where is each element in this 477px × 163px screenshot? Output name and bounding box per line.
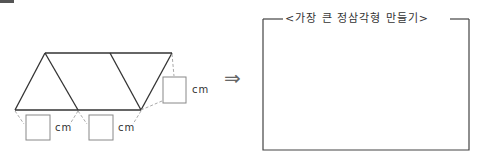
result-panel-title: <가장 큰 정삼각형 만들기> xyxy=(283,9,431,25)
answer-box-right-side[interactable] xyxy=(163,77,186,103)
unit-label-right-side: cm xyxy=(192,84,209,95)
result-panel-drawing-area[interactable] xyxy=(264,28,468,149)
double-right-arrow-icon: ⇒ xyxy=(224,68,241,88)
answer-box-bottom-left[interactable] xyxy=(26,115,50,140)
triangle-strip xyxy=(15,53,172,110)
unit-label-bottom-left: cm xyxy=(55,122,72,133)
unit-label-bottom-middle: cm xyxy=(118,122,135,133)
answer-box-bottom-middle[interactable] xyxy=(89,115,113,140)
